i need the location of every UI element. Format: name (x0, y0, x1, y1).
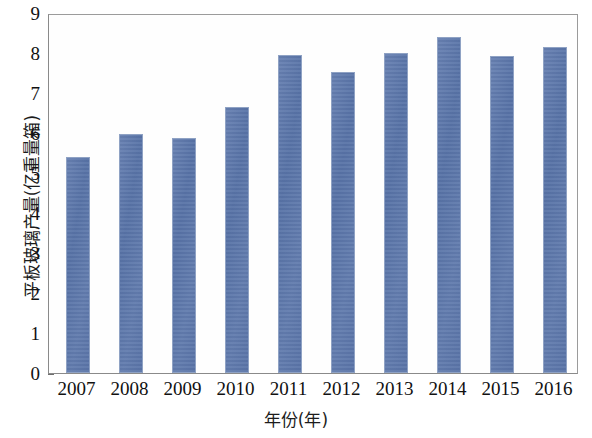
x-tick-label: 2011 (259, 379, 319, 398)
x-tick-label: 2015 (471, 379, 531, 398)
y-tick-label: 6 (10, 124, 40, 143)
bar (543, 47, 567, 373)
x-tick-label: 2016 (524, 379, 584, 398)
bar (331, 72, 355, 373)
x-tick-label: 2012 (312, 379, 372, 398)
bar-chart-figure: 平板玻璃产量(亿重量箱) 0123456789 2007200820092010… (0, 0, 592, 438)
bar (225, 107, 249, 373)
y-tick-label: 1 (10, 324, 40, 343)
y-tick-label: 2 (10, 284, 40, 303)
y-tick-label: 3 (10, 244, 40, 263)
plot-area (48, 14, 578, 374)
bar (490, 56, 514, 373)
y-tick-label: 5 (10, 164, 40, 183)
bar (66, 157, 90, 373)
x-tick-label: 2014 (418, 379, 478, 398)
x-tick-label: 2009 (153, 379, 213, 398)
y-tick-label: 7 (10, 84, 40, 103)
bar (437, 37, 461, 373)
bar (278, 55, 302, 373)
x-axis-title: 年份(年) (0, 406, 592, 431)
x-tick-label: 2007 (47, 379, 107, 398)
y-tick-label: 4 (10, 204, 40, 223)
bar (384, 53, 408, 373)
y-tick-label: 8 (10, 44, 40, 63)
y-tick-label: 0 (10, 364, 40, 383)
x-tick-label: 2010 (206, 379, 266, 398)
bar (119, 134, 143, 373)
y-tick-mark (48, 374, 54, 375)
y-tick-label: 9 (10, 4, 40, 23)
x-tick-label: 2008 (100, 379, 160, 398)
x-tick-label: 2013 (365, 379, 425, 398)
bar (172, 138, 196, 373)
